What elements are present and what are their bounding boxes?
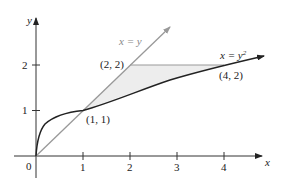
x-tick-4: 4 — [221, 161, 227, 173]
point-1-1-label: (1, 1) — [86, 113, 110, 126]
x-axis-label: x — [264, 156, 270, 168]
y-tick-2: 2 — [22, 59, 28, 71]
parabola-label: x = y2 — [219, 49, 247, 61]
x-tick-3: 3 — [174, 161, 180, 173]
region-diagram: y x 0 1 2 3 4 1 2 x = y x = y2 (1, 1) (2… — [0, 0, 282, 185]
line-label: x = y — [118, 35, 142, 47]
point-2-2-label: (2, 2) — [100, 58, 124, 71]
line-x-equals-y — [36, 27, 170, 156]
x-tick-2: 2 — [127, 161, 133, 173]
point-4-2-label: (4, 2) — [219, 69, 243, 82]
y-axis-label: y — [26, 14, 32, 26]
y-tick-1: 1 — [22, 104, 28, 116]
x-tick-1: 1 — [80, 161, 86, 173]
origin-label: 0 — [26, 160, 32, 172]
